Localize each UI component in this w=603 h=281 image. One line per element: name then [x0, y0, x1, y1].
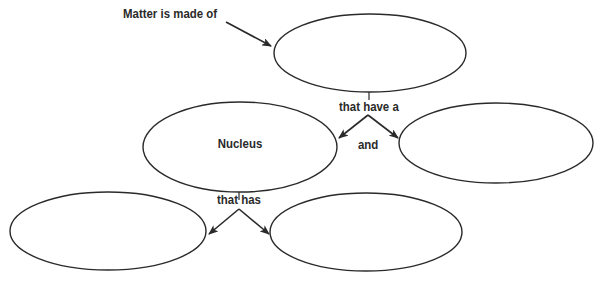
intro-arrow	[226, 22, 271, 46]
top-concept-oval[interactable]	[274, 14, 466, 92]
arrow-to-nucleus	[339, 115, 368, 138]
concept-map-graphics	[0, 0, 603, 281]
arrow-to-right-middle	[368, 115, 398, 138]
arrow-to-bottom-left	[209, 209, 239, 234]
bottom-left-concept-oval[interactable]	[10, 192, 206, 270]
right-middle-concept-oval[interactable]	[399, 103, 593, 183]
intro-text: Matter is made of	[123, 7, 217, 20]
linking-phrase-and: and	[358, 138, 378, 151]
linking-phrase-that-have-a: that have a	[339, 100, 399, 113]
concept-map: Matter is made of that have a and that h…	[0, 0, 603, 281]
arrow-to-bottom-right	[239, 209, 269, 234]
nucleus-label: Nucleus	[218, 137, 263, 150]
linking-phrase-that-has: that has	[217, 193, 261, 206]
bottom-right-concept-oval[interactable]	[270, 193, 462, 271]
